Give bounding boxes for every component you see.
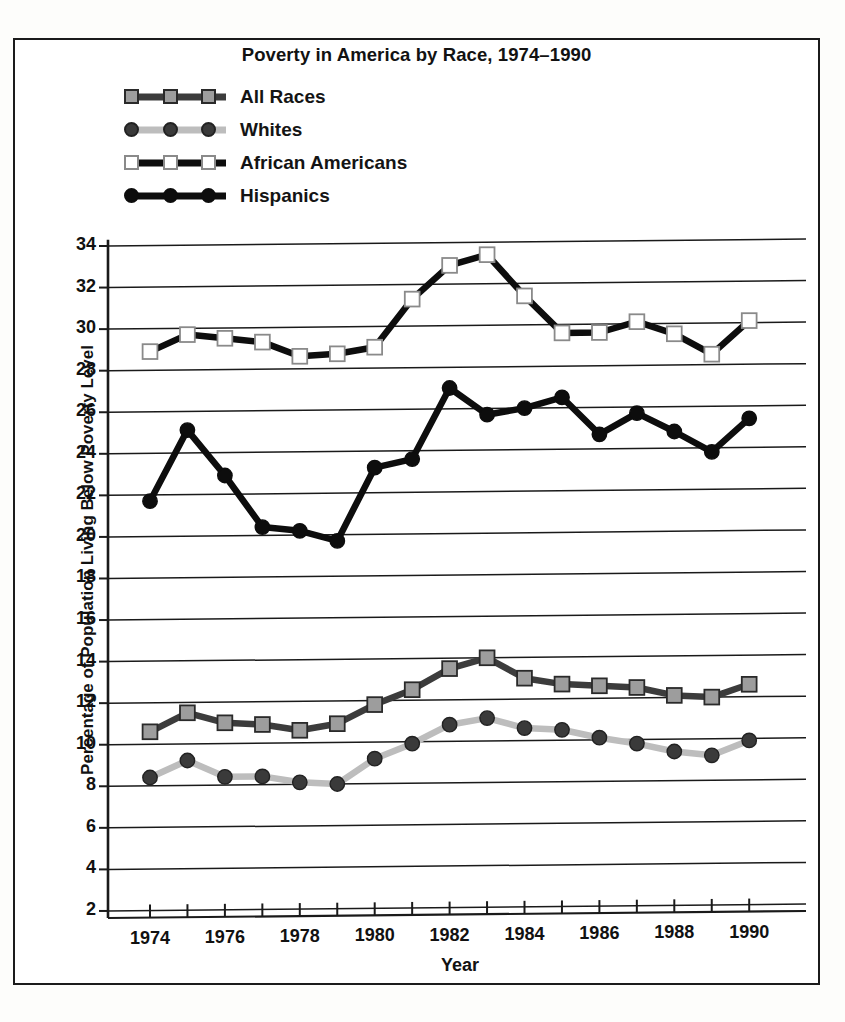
x-tick-label: 1976: [190, 927, 260, 948]
x-tick-label: 1978: [265, 926, 335, 947]
y-tick-label: 4: [60, 857, 96, 878]
scanned-page: Poverty in America by Race, 1974–1990 Al…: [0, 0, 845, 1022]
legend-swatch-icon: [128, 152, 228, 174]
legend-item-label: Hispanics: [240, 185, 330, 207]
legend-marker-icon: [201, 122, 216, 137]
legend-marker-icon: [201, 89, 216, 104]
y-tick-label: 32: [60, 276, 96, 297]
y-tick-label: 30: [60, 317, 96, 338]
x-tick-label: 1986: [564, 923, 634, 944]
legend-marker-icon: [163, 188, 178, 203]
x-tick-label: 1990: [714, 922, 784, 943]
y-tick-label: 28: [60, 359, 96, 380]
y-tick-label: 10: [60, 733, 96, 754]
y-tick-label: 16: [60, 608, 96, 629]
y-tick-label: 12: [60, 691, 96, 712]
legend-item: Hispanics: [128, 179, 548, 212]
y-tick-label: 20: [60, 525, 96, 546]
legend-marker-icon: [163, 155, 178, 170]
legend-marker-icon: [124, 89, 139, 104]
legend-item-label: African Americans: [240, 152, 407, 174]
x-axis-title: Year: [110, 955, 810, 976]
legend-marker-icon: [124, 122, 139, 137]
legend-swatch-icon: [128, 119, 228, 141]
y-tick-label: 8: [60, 774, 96, 795]
chart-legend: All RacesWhitesAfrican AmericansHispanic…: [128, 80, 548, 212]
legend-item: All Races: [128, 80, 548, 113]
y-tick-label: 22: [60, 483, 96, 504]
legend-marker-icon: [201, 188, 216, 203]
legend-swatch-icon: [128, 185, 228, 207]
y-tick-label: 2: [60, 899, 96, 920]
x-tick-label: 1982: [415, 925, 485, 946]
page-title: Poverty in America by Race, 1974–1990: [13, 44, 820, 66]
legend-swatch-icon: [128, 86, 228, 108]
legend-marker-icon: [124, 188, 139, 203]
y-tick-label: 14: [60, 650, 96, 671]
legend-item: Whites: [128, 113, 548, 146]
legend-item-label: Whites: [240, 119, 302, 141]
y-tick-label: 18: [60, 566, 96, 587]
legend-marker-icon: [163, 122, 178, 137]
y-tick-label: 26: [60, 400, 96, 421]
legend-item: African Americans: [128, 146, 548, 179]
y-tick-label: 34: [60, 234, 96, 255]
legend-marker-icon: [163, 89, 178, 104]
x-tick-label: 1980: [340, 925, 410, 946]
legend-marker-icon: [201, 155, 216, 170]
legend-marker-icon: [124, 155, 139, 170]
y-tick-label: 24: [60, 442, 96, 463]
x-tick-label: 1974: [115, 928, 185, 949]
x-tick-label: 1988: [639, 922, 709, 943]
x-tick-label: 1984: [490, 924, 560, 945]
y-tick-label: 6: [60, 816, 96, 837]
legend-item-label: All Races: [240, 86, 326, 108]
